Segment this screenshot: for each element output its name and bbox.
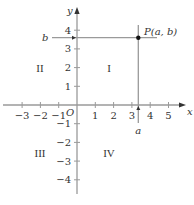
a-label: a: [135, 125, 141, 136]
y-axis-label: y: [66, 5, 73, 16]
x-tick-label: 3: [129, 110, 135, 121]
y-tick-label: −4: [56, 174, 71, 185]
labels: −3−2−1123454321−1−2−3−4xyOIIIIIIIVP(a, b…: [15, 5, 193, 185]
coordinate-plane: −3−2−1123454321−1−2−3−4xyOIIIIIIIVP(a, b…: [0, 0, 194, 205]
y-tick-label: −2: [56, 137, 71, 148]
quadrant-3-label: III: [35, 147, 46, 159]
y-axis-arrow-icon: [74, 7, 79, 14]
y-tick-label: 2: [65, 62, 71, 73]
b-arrow-icon: [72, 36, 76, 40]
y-tick-label: 3: [65, 43, 71, 54]
x-tick-label: 5: [165, 110, 171, 121]
origin-label: O: [66, 107, 74, 118]
quadrant-2-label: II: [36, 62, 44, 74]
y-tick-label: 1: [65, 81, 71, 92]
x-axis-arrow-icon: [179, 102, 186, 107]
x-tick-label: 1: [92, 110, 98, 121]
y-tick-label: −3: [56, 156, 71, 167]
point-label: P(a, b): [143, 26, 177, 37]
x-tick-label: 4: [147, 110, 153, 121]
quadrant-4-label: IV: [103, 147, 115, 159]
x-axis-label: x: [187, 106, 193, 117]
b-label: b: [42, 32, 48, 43]
y-tick-label: 4: [65, 25, 71, 36]
x-tick-label: −3: [15, 110, 30, 121]
quadrant-1-label: I: [107, 62, 111, 74]
x-tick-label: 2: [110, 110, 116, 121]
x-tick-label: −2: [33, 110, 48, 121]
a-arrow-icon: [136, 106, 140, 110]
y-tick-label: −1: [56, 118, 71, 129]
point-p: [136, 35, 140, 39]
